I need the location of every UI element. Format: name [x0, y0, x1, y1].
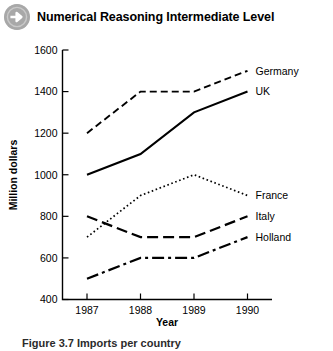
figure-caption: Figure 3.7 Imports per country [0, 338, 333, 351]
y-tick-label: 1200 [34, 127, 58, 139]
y-tick-label: 1400 [34, 85, 58, 97]
y-tick-label: 800 [40, 210, 58, 222]
y-tick-label: 400 [40, 293, 58, 305]
series-label-uk: UK [256, 85, 271, 97]
series-label-germany: Germany [256, 65, 300, 77]
line-chart: 4006008001000120014001600 19871988198919… [0, 34, 333, 334]
series-line-holland [87, 237, 248, 279]
x-tick-label: 1989 [182, 304, 206, 316]
y-axis-title: Million dollars [7, 140, 19, 211]
page-title: Numerical Reasoning Intermediate Level [37, 10, 274, 24]
series-label-holland: Holland [256, 231, 292, 243]
chart-axes [63, 50, 273, 300]
x-tick-label: 1990 [236, 304, 260, 316]
arrow-right-circle-icon [4, 4, 30, 30]
series-line-uk [87, 92, 248, 175]
y-axis-ticks: 4006008001000120014001600 [34, 44, 68, 306]
series-label-france: France [256, 189, 289, 201]
series-labels: GermanyUKFranceItalyHolland [256, 65, 300, 243]
series-line-france [87, 175, 248, 237]
x-tick-label: 1987 [75, 304, 99, 316]
y-tick-label: 1600 [34, 44, 58, 56]
page-header: Numerical Reasoning Intermediate Level [0, 0, 333, 34]
axis-lines [63, 50, 273, 300]
y-tick-label: 1000 [34, 169, 58, 181]
series-label-italy: Italy [256, 210, 276, 222]
x-axis-title: Year [156, 316, 178, 328]
y-tick-label: 600 [40, 252, 58, 264]
x-tick-label: 1988 [129, 304, 153, 316]
chart-series [87, 71, 248, 279]
x-axis-ticks: 1987198819891990 [75, 294, 259, 316]
